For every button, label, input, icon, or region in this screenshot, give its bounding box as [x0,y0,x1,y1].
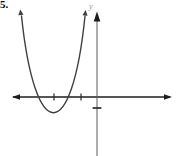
x-axis-left-arrow-icon [12,94,20,100]
x-axis-right-arrow-icon [164,94,172,100]
parabola-graph: y [0,0,179,156]
y-axis-label: y [88,2,93,11]
parabola-left-arrow-icon [18,10,23,16]
y-axis-up-arrow-icon [94,12,101,22]
parabola-right-arrow-icon [83,10,88,16]
graph-figure: 5. y [0,0,179,156]
parabola-curve [22,16,86,113]
problem-number: 5. [0,0,8,10]
